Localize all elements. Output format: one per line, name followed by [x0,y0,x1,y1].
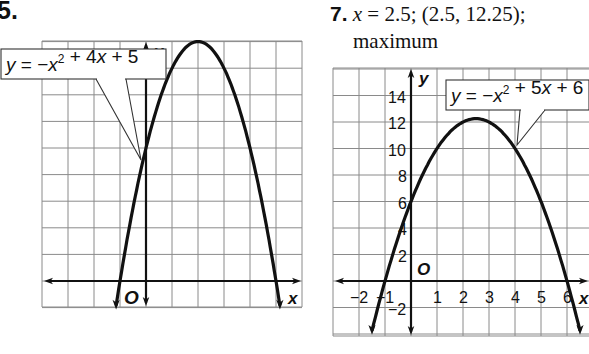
graph-5: yxOy = −x2 + 4x + 5 [1,41,302,310]
x-tick-label: −2 [350,289,368,306]
graphs: yxOy = −x2 + 4x + 5yxO−2−112345614121086… [0,0,589,354]
y-tick-label: 6 [398,195,407,212]
origin-label: O [417,260,430,279]
graph-7: yxO−2−11234561412108642−2y = −x2 + 5x + … [333,68,589,336]
y-tick-label: 8 [398,168,407,185]
y-tick-label: 10 [388,142,406,159]
y-tick-label: −2 [388,301,406,318]
x-tick-label: 3 [485,289,494,306]
x-tick-label: 1 [433,289,442,306]
x-tick-label: 2 [459,289,468,306]
y-axis-label: y [418,69,430,88]
grid [42,41,302,308]
x-axis-label: x [578,289,589,308]
y-tick-label: 12 [388,115,406,132]
x-tick-label: 5 [537,289,546,306]
origin-label: O [124,287,139,308]
y-tick-label: 14 [388,89,406,106]
y-tick-label: 2 [398,248,407,265]
x-tick-label: 4 [511,289,520,306]
x-axis-label: x [287,289,299,308]
